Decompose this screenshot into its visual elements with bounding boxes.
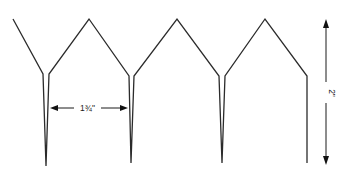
picket-template-diagram: 1¾" 2" [0, 0, 345, 179]
height-dimension-label: 2" [327, 89, 337, 97]
vertical-dimension: 2" [323, 19, 337, 165]
arrow-up-icon [323, 19, 329, 28]
horizontal-dimension: 1¾" [50, 103, 128, 113]
arrow-down-icon [323, 156, 329, 165]
spacing-dimension-label: 1¾" [80, 103, 95, 113]
picket-outline [13, 19, 307, 166]
arrow-right-icon [120, 105, 128, 111]
arrow-left-icon [50, 105, 58, 111]
